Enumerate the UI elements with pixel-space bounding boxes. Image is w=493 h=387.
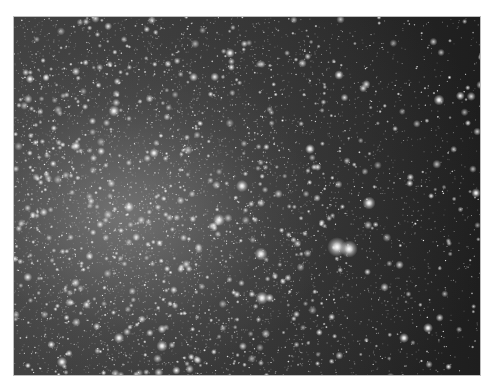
star-cluster-image <box>13 16 481 376</box>
star-field <box>14 17 481 376</box>
